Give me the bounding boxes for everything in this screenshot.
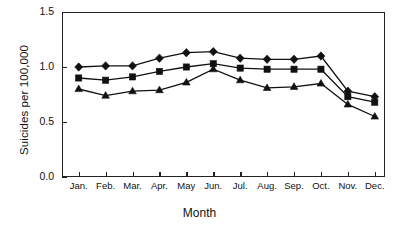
x-tick-mark [133, 172, 134, 177]
x-tick-mark [186, 172, 187, 177]
y-tick-mark [62, 177, 67, 178]
x-tick-mark [240, 172, 241, 177]
y-tick-label: 0.5 [20, 115, 54, 127]
y-axis-title: Suicides per 100,000 [18, 20, 30, 180]
plot-area [62, 12, 385, 177]
x-tick-mark [375, 172, 376, 177]
x-tick-mark [294, 172, 295, 177]
x-tick-mark [79, 172, 80, 177]
x-axis-title: Month [0, 206, 399, 220]
y-tick-mark [62, 122, 67, 123]
suicide-rate-line-chart: Suicides per 100,000 0.00.51.01.5 Jan.Fe… [0, 0, 399, 229]
x-tick-mark [267, 172, 268, 177]
y-tick-mark [62, 12, 67, 13]
x-tick-mark [106, 172, 107, 177]
y-tick-label: 0.0 [20, 170, 54, 182]
y-tick-label: 1.5 [20, 5, 54, 17]
x-tick-mark [321, 172, 322, 177]
x-tick-mark [159, 172, 160, 177]
x-tick-mark [348, 172, 349, 177]
y-tick-mark [62, 67, 67, 68]
x-tick-label: Dec. [355, 180, 395, 191]
y-tick-label: 1.0 [20, 60, 54, 72]
x-tick-mark [213, 172, 214, 177]
